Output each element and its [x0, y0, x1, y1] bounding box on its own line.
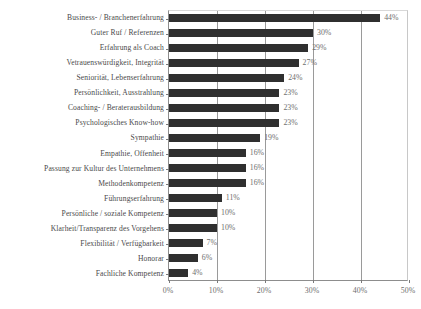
- x-axis-tick-labels: 0%10%20%30%40%50%: [168, 286, 408, 300]
- bar-row: 16%: [169, 161, 408, 176]
- bar-value-label: 23%: [283, 104, 297, 112]
- bar: [169, 164, 246, 172]
- category-label: Persönlichkeit, Ausstrahlung: [74, 88, 164, 97]
- bar-value-label: 19%: [264, 134, 278, 142]
- category-label: Passung zur Kultur des Unternehmens: [44, 164, 164, 173]
- category-label-row: Persönlichkeit, Ausstrahlung: [0, 85, 164, 100]
- category-label-row: Passung zur Kultur des Unternehmens: [0, 161, 164, 176]
- category-label: Führungserfahrung: [104, 194, 164, 203]
- bar: [169, 239, 203, 247]
- bar-value-label: 10%: [221, 224, 235, 232]
- category-label: Vetrauenswürdigkeit, Integrität: [66, 58, 164, 67]
- bar-value-label: 29%: [312, 44, 326, 52]
- category-label-row: Flexibilität / Verfügbarkeit: [0, 236, 164, 251]
- bar: [169, 44, 308, 52]
- category-label-row: Persönliche / soziale Kompetenz: [0, 206, 164, 221]
- bar: [169, 254, 198, 262]
- bar: [169, 269, 188, 277]
- bar: [169, 119, 279, 127]
- x-axis-tick-label: 30%: [305, 286, 319, 295]
- category-label: Erfahrung als Coach: [100, 43, 164, 52]
- bar: [169, 194, 222, 202]
- bar-value-label: 24%: [288, 74, 302, 82]
- bars-container: 44%30%29%27%24%23%23%23%19%16%16%16%11%1…: [169, 10, 408, 281]
- bar: [169, 74, 284, 82]
- bar: [169, 134, 260, 142]
- category-label-row: Methodenkompetenz: [0, 176, 164, 191]
- bar-row: 24%: [169, 70, 408, 85]
- bar: [169, 59, 299, 67]
- bar-value-label: 4%: [192, 269, 202, 277]
- category-label: Sympathie: [131, 133, 164, 142]
- category-label-row: Coaching- / Beraterausbildung: [0, 100, 164, 115]
- x-axis-tick-label: 20%: [257, 286, 271, 295]
- bar-row: 19%: [169, 130, 408, 145]
- category-label-row: Sympathie: [0, 130, 164, 145]
- category-label: Persönliche / soziale Kompetenz: [62, 209, 164, 218]
- category-label: Business- / Branchenerfahrung: [67, 13, 164, 22]
- bar-value-label: 16%: [250, 149, 264, 157]
- x-axis-tick-label: 40%: [353, 286, 367, 295]
- bar-row: 16%: [169, 176, 408, 191]
- bar-row: 44%: [169, 10, 408, 25]
- bar-value-label: 16%: [250, 179, 264, 187]
- category-label: Empathie, Offenheit: [100, 149, 164, 158]
- category-label-row: Empathie, Offenheit: [0, 146, 164, 161]
- category-label: Coaching- / Beraterausbildung: [68, 103, 164, 112]
- bar: [169, 149, 246, 157]
- category-label: Methodenkompetenz: [98, 179, 164, 188]
- x-axis-tick-label: 10%: [209, 286, 223, 295]
- bar-value-label: 23%: [283, 119, 297, 127]
- bar-value-label: 23%: [283, 89, 297, 97]
- category-label-row: Erfahrung als Coach: [0, 40, 164, 55]
- category-label-row: Business- / Branchenerfahrung: [0, 10, 164, 25]
- category-label-row: Guter Ruf / Referenzen: [0, 25, 164, 40]
- category-label: Flexibilität / Verfügbarkeit: [80, 239, 164, 248]
- bar-row: 29%: [169, 40, 408, 55]
- bar-value-label: 10%: [221, 209, 235, 217]
- bar: [169, 89, 279, 97]
- category-axis-labels: Business- / BranchenerfahrungGuter Ruf /…: [0, 10, 164, 281]
- bar-row: 30%: [169, 25, 408, 40]
- category-label: Guter Ruf / Referenzen: [91, 28, 164, 37]
- bar-value-label: 44%: [384, 14, 398, 22]
- category-label-row: Psychologisches Know-how: [0, 115, 164, 130]
- x-axis-tick-label: 50%: [401, 286, 415, 295]
- bar-row: 6%: [169, 251, 408, 266]
- bar: [169, 104, 279, 112]
- bar-value-label: 16%: [250, 164, 264, 172]
- category-label-row: Honorar: [0, 251, 164, 266]
- bar-row: 27%: [169, 55, 408, 70]
- bar: [169, 224, 217, 232]
- bar-chart: Business- / BranchenerfahrungGuter Ruf /…: [0, 0, 421, 309]
- bar-row: 23%: [169, 115, 408, 130]
- category-label-row: Klarheit/Transparenz des Vorgehens: [0, 221, 164, 236]
- bar-value-label: 27%: [303, 59, 317, 67]
- bar-row: 11%: [169, 191, 408, 206]
- category-label: Klarheit/Transparenz des Vorgehens: [51, 224, 164, 233]
- bar-row: 16%: [169, 146, 408, 161]
- bar: [169, 179, 246, 187]
- x-axis-tick-label: 0%: [163, 286, 173, 295]
- category-label: Honorar: [138, 254, 164, 263]
- category-label-row: Führungserfahrung: [0, 191, 164, 206]
- bar-value-label: 6%: [202, 254, 212, 262]
- bar-row: 23%: [169, 85, 408, 100]
- bar-value-label: 30%: [317, 29, 331, 37]
- bar-row: 4%: [169, 266, 408, 281]
- bar: [169, 209, 217, 217]
- category-label-row: Fachliche Kompetenz: [0, 266, 164, 281]
- category-label-row: Vetrauenswürdigkeit, Integrität: [0, 55, 164, 70]
- category-label-row: Seniorität, Lebenserfahrung: [0, 70, 164, 85]
- category-label: Seniorität, Lebenserfahrung: [77, 73, 164, 82]
- category-label: Psychologisches Know-how: [75, 118, 164, 127]
- bar-row: 10%: [169, 221, 408, 236]
- x-axis-tick: [409, 280, 410, 283]
- bar-row: 7%: [169, 236, 408, 251]
- bar-value-label: 11%: [226, 194, 240, 202]
- category-label: Fachliche Kompetenz: [96, 269, 164, 278]
- bar: [169, 14, 380, 22]
- bar-value-label: 7%: [207, 239, 217, 247]
- bar-row: 10%: [169, 206, 408, 221]
- bar-row: 23%: [169, 100, 408, 115]
